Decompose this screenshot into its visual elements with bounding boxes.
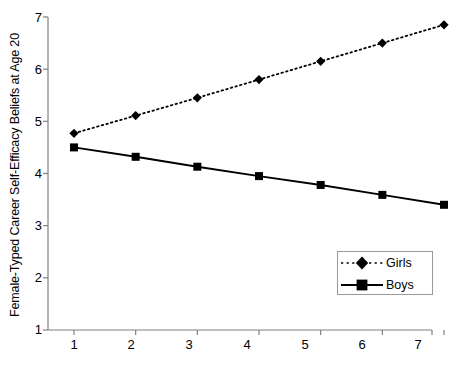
legend-item-boys: Boys: [338, 274, 432, 296]
series-girls: [69, 20, 448, 138]
x-tick-marks: [74, 330, 444, 335]
legend-label-girls: Girls: [386, 257, 412, 270]
y-tick-marks: [43, 17, 48, 330]
legend-item-girls: Girls: [338, 252, 432, 274]
series-boys: [70, 143, 448, 208]
chart-figure: Female-Typed Career Self-Efficacy Belief…: [0, 0, 458, 382]
legend-swatch-girls-icon: [338, 252, 386, 274]
legend-label-boys: Boys: [386, 279, 414, 292]
legend-swatch-boys-icon: [338, 274, 386, 296]
plot-area: [0, 0, 458, 382]
legend: Girls Boys: [337, 251, 433, 295]
